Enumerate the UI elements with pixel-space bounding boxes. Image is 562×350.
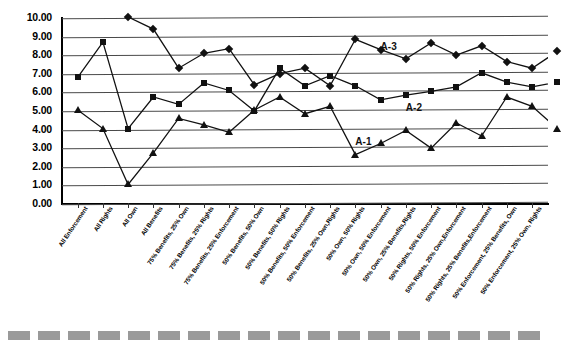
y-axis-tick-label: 8.00: [6, 49, 52, 59]
series-line-a-1: [78, 97, 548, 184]
footer-dashed-bar: [8, 331, 548, 340]
footer-dash-segment: [518, 331, 540, 340]
footer-dash-segment: [68, 331, 90, 340]
y-axis-tick-label: 4.00: [6, 124, 52, 134]
x-axis-tick: [355, 203, 356, 208]
data-point-a-2: [226, 87, 232, 93]
x-axis-tick: [456, 203, 457, 208]
footer-dash-segment: [38, 331, 60, 340]
footer-dash-segment: [188, 331, 210, 340]
data-point-a-2: [100, 39, 106, 45]
data-point-a-1: [326, 102, 334, 109]
x-axis-category-label: All Enforcement: [56, 205, 88, 248]
y-axis-tick-label: 5.00: [6, 105, 52, 115]
x-axis-category-label: All Benefits: [140, 205, 165, 237]
x-axis-category-label: 50% Benefits, 50% Rights: [243, 205, 290, 270]
data-point-a-1: [427, 144, 435, 151]
footer-dash-segment: [8, 331, 30, 340]
data-point-a-1: [402, 126, 410, 133]
plot-area: A-1A-2A-3: [62, 17, 548, 203]
data-point-a-2: [176, 101, 182, 107]
data-point-a-2: [352, 83, 358, 89]
data-point-a-2: [302, 83, 308, 89]
x-axis-category-label: 50% Own, 50% Enforcement: [340, 205, 392, 277]
x-axis-tick: [204, 203, 205, 208]
y-axis-tick-label: 10.00: [6, 12, 52, 22]
data-point-a-1: [124, 180, 132, 187]
data-point-a-2: [504, 79, 510, 85]
x-axis-tick: [381, 203, 382, 208]
data-point-a-1: [478, 132, 486, 139]
data-point-a-1: [553, 125, 561, 132]
footer-dash-segment: [428, 331, 450, 340]
data-point-a-3: [553, 47, 561, 55]
footer-dash-segment: [398, 331, 420, 340]
y-axis-tick-label: 1.00: [6, 179, 52, 189]
data-point-a-1: [99, 125, 107, 132]
data-point-a-1: [377, 139, 385, 146]
x-axis-tick: [179, 203, 180, 208]
data-point-a-2: [529, 84, 535, 90]
footer-dash-segment: [158, 331, 180, 340]
x-axis-tick: [406, 203, 407, 208]
data-point-a-1: [528, 102, 536, 109]
data-point-a-1: [351, 151, 359, 158]
data-point-a-1: [503, 93, 511, 100]
y-axis-tick-label: 7.00: [6, 68, 52, 78]
footer-dash-segment: [128, 331, 150, 340]
data-point-a-1: [175, 114, 183, 121]
y-axis-tick-label: 3.00: [6, 142, 52, 152]
data-point-a-2: [378, 97, 384, 103]
footer-dash-segment: [308, 331, 330, 340]
data-point-a-1: [225, 128, 233, 135]
data-point-a-2: [428, 88, 434, 94]
footer-dash-segment: [338, 331, 360, 340]
x-axis-tick: [507, 203, 508, 208]
x-axis-tick: [280, 203, 281, 208]
series-annotation-a-2: A-2: [406, 102, 422, 113]
data-point-a-2: [554, 79, 560, 85]
x-axis-tick: [305, 203, 306, 208]
footer-dash-segment: [278, 331, 300, 340]
x-axis-tick: [330, 203, 331, 208]
data-point-a-2: [75, 74, 81, 80]
data-point-a-2: [479, 70, 485, 76]
footer-dash-segment: [98, 331, 120, 340]
data-point-a-1: [452, 119, 460, 126]
series-line-a-3: [128, 17, 548, 86]
x-axis-tick: [229, 203, 230, 208]
data-point-a-1: [301, 110, 309, 117]
footer-dash-segment: [368, 331, 390, 340]
x-axis-category-label: 75% Benefits, 25% Rights: [167, 205, 214, 270]
data-point-a-2: [251, 108, 257, 114]
data-point-a-2: [453, 84, 459, 90]
footer-dash-segment: [488, 331, 510, 340]
footer-dash-segment: [218, 331, 240, 340]
x-axis-tick: [532, 203, 533, 208]
y-axis-tick-label: 9.00: [6, 31, 52, 41]
series-line-a-2: [78, 42, 548, 129]
data-point-a-1: [149, 149, 157, 156]
x-axis-tick: [482, 203, 483, 208]
data-point-a-2: [125, 126, 131, 132]
y-axis-tick-label: 2.00: [6, 161, 52, 171]
data-point-a-2: [403, 92, 409, 98]
footer-dash-segment: [458, 331, 480, 340]
data-point-a-2: [201, 80, 207, 86]
data-point-a-2: [327, 73, 333, 79]
x-axis-tick: [78, 203, 79, 208]
x-axis-category-label: All Own: [120, 205, 139, 228]
x-axis-tick: [153, 203, 154, 208]
footer-dash-segment: [248, 331, 270, 340]
x-axis-tick: [128, 203, 129, 208]
data-point-a-2: [150, 94, 156, 100]
x-axis-tick: [431, 203, 432, 208]
x-axis-labels: All EnforcementAll RightsAll OwnAll Bene…: [0, 205, 556, 335]
series-annotation-a-1: A-1: [355, 136, 371, 147]
y-axis-tick-label: 6.00: [6, 86, 52, 96]
data-point-a-1: [276, 93, 284, 100]
series-annotation-a-3: A-3: [381, 41, 397, 52]
data-point-a-1: [74, 106, 82, 113]
x-axis-tick: [103, 203, 104, 208]
